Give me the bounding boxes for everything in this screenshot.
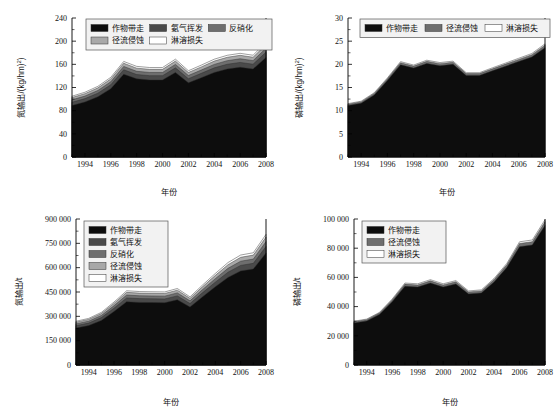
legend-swatch xyxy=(485,25,502,32)
x-tick-label: 1996 xyxy=(103,160,119,169)
legend-swatch xyxy=(89,227,106,234)
legend-label: 作物带走 xyxy=(110,225,142,235)
y-tick-label: 300 000 xyxy=(45,312,71,321)
legend-label: 淋溶损失 xyxy=(171,35,203,45)
y-axis-title: 氮输出/(kg/hm)2) xyxy=(16,57,26,117)
y-tick-label: 40 000 xyxy=(327,302,349,311)
y-tick-label: 150 000 xyxy=(45,336,71,345)
panel-phosphorus-intensity: 0510152025301994199619982000200220042006… xyxy=(278,0,557,205)
legend-label: 反硝化 xyxy=(110,249,134,259)
x-tick-label: 2006 xyxy=(233,368,249,377)
y-tick-label: 200 xyxy=(55,37,67,46)
x-tick-label: 1996 xyxy=(106,368,122,377)
y-axis-title: 氮输出/t xyxy=(14,277,24,306)
x-tick-label: 1998 xyxy=(410,368,426,377)
legend-label: 氨气挥发 xyxy=(171,23,203,33)
legend-swatch xyxy=(208,25,225,32)
x-tick-label: 2008 xyxy=(258,160,274,169)
legend-swatch xyxy=(89,263,106,270)
y-tick-label: 80 xyxy=(59,106,67,115)
x-tick-label: 2002 xyxy=(461,368,477,377)
y-tick-label: 600 000 xyxy=(45,263,71,272)
legend-label: 氨气挥发 xyxy=(110,237,142,247)
legend: 作物带走径流侵蚀淋溶损失 xyxy=(362,221,446,263)
y-axis-title: 磷输出/(kg/hm)2) xyxy=(294,57,304,117)
chart-phosphorus-total: 020 00040 00060 00080 000100 00019941996… xyxy=(278,205,557,415)
x-tick-label: 2008 xyxy=(537,160,553,169)
y-tick-label: 20 xyxy=(335,60,343,69)
y-tick-label: 900 000 xyxy=(45,215,71,224)
y-tick-label: 0 xyxy=(63,153,67,162)
x-tick-label: 2004 xyxy=(206,160,222,169)
y-tick-label: 30 xyxy=(335,14,343,23)
x-tick-label: 2002 xyxy=(182,368,198,377)
x-tick-label: 2008 xyxy=(258,368,274,377)
x-tick-label: 2002 xyxy=(458,160,474,169)
x-tick-label: 2000 xyxy=(435,368,451,377)
y-tick-label: 0 xyxy=(339,153,343,162)
x-tick-label: 1994 xyxy=(81,368,97,377)
x-tick-label: 2006 xyxy=(232,160,248,169)
y-tick-label: 0 xyxy=(345,361,349,370)
legend-swatch xyxy=(367,227,384,234)
x-tick-label: 1998 xyxy=(131,368,147,377)
x-tick-label: 2006 xyxy=(512,368,528,377)
panel-nitrogen-total: 0150 000300 000450 000600 000750 000900 … xyxy=(0,205,278,415)
chart-nitrogen-total: 0150 000300 000450 000600 000750 000900 … xyxy=(0,205,278,415)
legend: 作物带走氨气挥发反硝化径流侵蚀淋溶损失 xyxy=(86,19,272,50)
y-tick-label: 120 xyxy=(55,83,67,92)
chart-nitrogen-intensity: 0408012016020024019941996199820002002200… xyxy=(0,0,278,205)
legend-swatch xyxy=(89,239,106,246)
legend-label: 径流侵蚀 xyxy=(110,261,142,271)
x-tick-label: 2000 xyxy=(155,160,171,169)
legend-label: 径流侵蚀 xyxy=(388,237,420,247)
x-tick-label: 2004 xyxy=(486,368,502,377)
y-tick-label: 40 xyxy=(59,130,67,139)
x-tick-label: 2000 xyxy=(432,160,448,169)
y-tick-label: 25 xyxy=(335,37,343,46)
x-tick-label: 1998 xyxy=(129,160,145,169)
x-axis-title: 年份 xyxy=(163,397,179,407)
legend-swatch xyxy=(89,251,106,258)
legend-label: 淋溶损失 xyxy=(506,23,538,33)
y-tick-label: 100 000 xyxy=(323,215,349,224)
x-axis-title: 年份 xyxy=(442,397,458,407)
legend-swatch xyxy=(91,37,108,44)
x-tick-label: 2002 xyxy=(180,160,196,169)
y-tick-label: 750 000 xyxy=(45,239,71,248)
legend-label: 作物带走 xyxy=(386,23,418,33)
legend-label: 作物带走 xyxy=(388,225,420,235)
x-tick-label: 1996 xyxy=(379,160,395,169)
legend-swatch xyxy=(150,37,167,44)
x-axis-title: 年份 xyxy=(439,187,455,197)
legend-swatch xyxy=(367,251,384,258)
x-tick-label: 2004 xyxy=(207,368,223,377)
legend-label: 径流侵蚀 xyxy=(112,35,144,45)
y-tick-label: 80 000 xyxy=(327,244,349,253)
panel-nitrogen-intensity: 0408012016020024019941996199820002002200… xyxy=(0,0,278,205)
legend-label: 淋溶损失 xyxy=(110,273,142,283)
y-tick-label: 5 xyxy=(339,130,343,139)
legend: 作物带走氨气挥发反硝化径流侵蚀淋溶损失 xyxy=(84,221,168,287)
x-tick-label: 2004 xyxy=(484,160,500,169)
panel-phosphorus-total: 020 00040 00060 00080 000100 00019941996… xyxy=(278,205,557,415)
y-tick-label: 10 xyxy=(335,106,343,115)
legend-label: 淋溶损失 xyxy=(388,249,420,259)
y-tick-label: 160 xyxy=(55,60,67,69)
legend-swatch xyxy=(425,25,442,32)
legend-label: 径流侵蚀 xyxy=(446,23,478,33)
x-tick-label: 1998 xyxy=(406,160,422,169)
x-tick-label: 2000 xyxy=(157,368,173,377)
y-tick-label: 450 000 xyxy=(45,288,71,297)
y-axis-title: 磷输出/t xyxy=(292,277,302,306)
x-tick-label: 1994 xyxy=(353,160,369,169)
legend-swatch xyxy=(367,239,384,246)
y-tick-label: 0 xyxy=(67,361,71,370)
y-tick-label: 20 000 xyxy=(327,332,349,341)
y-tick-label: 15 xyxy=(335,83,343,92)
x-tick-label: 1996 xyxy=(384,368,400,377)
legend-swatch xyxy=(91,25,108,32)
y-tick-label: 240 xyxy=(55,14,67,23)
legend-swatch xyxy=(365,25,382,32)
legend-label: 反硝化 xyxy=(229,23,253,33)
